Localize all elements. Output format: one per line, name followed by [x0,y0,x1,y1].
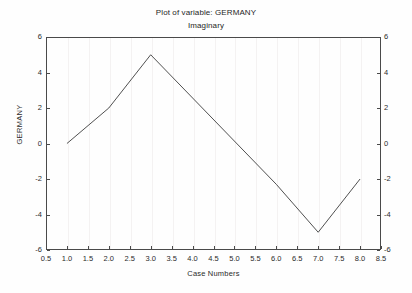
x-axis-tick-mark [360,246,361,249]
x-axis-label: Case Numbers [46,269,381,278]
y-axis-tick-label-right: -6 [384,246,406,254]
x-axis-tick-mark [318,246,319,249]
y-axis-tick-mark [47,215,50,216]
chart-subtitle: Imaginary [0,19,412,32]
y-axis-tick-mark-right [377,108,380,109]
y-axis-tick-mark [47,250,50,251]
y-axis-tick-label-right: 4 [384,69,406,77]
x-axis-tick-mark [276,246,277,249]
x-axis-tick-mark [381,246,382,249]
y-axis-tick-label: -2 [20,175,42,183]
y-axis-tick-mark [47,37,50,38]
x-axis-tick-label: 8.5 [368,254,394,263]
x-axis-tick-mark [172,246,173,249]
y-axis-tick-mark [47,73,50,74]
y-axis-tick-mark [47,144,50,145]
y-axis-tick-label: -4 [20,211,42,219]
y-axis-label: GERMANY [15,85,24,165]
y-axis-tick-mark-right [377,144,380,145]
x-axis-tick-mark [255,246,256,249]
y-axis-tick-label: 6 [20,33,42,41]
x-axis-tick-mark [67,246,68,249]
x-axis-tick-mark [297,246,298,249]
y-axis-tick-mark-right [377,250,380,251]
y-axis-tick-mark-right [377,215,380,216]
y-axis-tick-label-right: -2 [384,175,406,183]
y-axis-tick-mark [47,108,50,109]
x-axis-tick-mark [88,246,89,249]
y-axis-tick-label: 4 [20,69,42,77]
y-axis-tick-label: -6 [20,246,42,254]
line-series-germany [67,55,360,233]
y-axis-tick-mark-right [377,37,380,38]
data-series-layer [46,37,381,250]
chart-title-block: Plot of variable: GERMANY Imaginary [0,6,412,32]
page-title: Plot of variable: GERMANY [0,6,412,19]
y-axis-tick-mark-right [377,73,380,74]
y-axis-tick-label-right: 6 [384,33,406,41]
x-axis-tick-mark [109,246,110,249]
x-axis-tick-mark [193,246,194,249]
chart-figure: Plot of variable: GERMANY Imaginary 6644… [0,0,412,293]
x-axis-tick-mark [214,246,215,249]
y-axis-tick-mark [47,179,50,180]
x-axis-tick-mark [130,246,131,249]
x-axis-tick-mark [46,246,47,249]
x-axis-tick-mark [234,246,235,249]
x-axis-tick-mark [151,246,152,249]
y-axis-tick-label-right: 0 [384,140,406,148]
x-axis-tick-mark [339,246,340,249]
y-axis-tick-label-right: -4 [384,211,406,219]
y-axis-tick-mark-right [377,179,380,180]
y-axis-tick-label-right: 2 [384,104,406,112]
